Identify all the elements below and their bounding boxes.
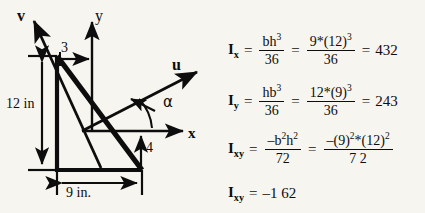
fraction-denominator: 7 2 <box>324 149 393 167</box>
dimension-label-12in: 12 in <box>6 97 34 111</box>
fraction-denominator: 36 <box>307 50 355 68</box>
fraction-numerator: 12*(9)3 <box>307 83 355 101</box>
u-axis-line <box>82 72 197 131</box>
fraction-numerator: 9*(12)3 <box>307 32 355 50</box>
y-axis-label: y <box>95 8 103 24</box>
u-axis-label: u <box>172 57 181 73</box>
fraction-denominator: 36 <box>307 101 355 119</box>
fraction-hb3-36: hb3 36 <box>259 83 284 119</box>
figure-canvas: v y u x α 3 4 12 in 9 in. Ix = bh3 36 = … <box>0 0 425 213</box>
dimension-label-4: 4 <box>146 141 153 155</box>
equation-ix: Ix = bh3 36 = 9*(12)3 36 = 432 <box>228 32 398 68</box>
equals-sign: = <box>244 93 252 110</box>
equation-ix-result: 432 <box>375 42 398 59</box>
triangle-outline <box>57 56 142 170</box>
fraction-9x12cubed-36: 9*(12)3 36 <box>307 32 355 68</box>
x-axis-label: x <box>188 126 196 141</box>
dimension-label-9in: 9 in. <box>66 186 91 200</box>
fraction-numerator: bh3 <box>259 32 284 50</box>
fraction-denominator: 72 <box>265 149 302 167</box>
dimension-12in <box>28 56 57 170</box>
equation-ixy-result-row: Ixy = –1 62 <box>228 184 296 203</box>
equals-sign: = <box>291 42 299 59</box>
equals-sign: = <box>291 93 299 110</box>
equation-iy: Iy = hb3 36 = 12*(9)3 36 = 243 <box>228 83 398 119</box>
diagram-panel: v y u x α 3 4 12 in 9 in. <box>0 0 215 213</box>
fraction-denominator: 36 <box>259 50 284 68</box>
equation-ixy-result-lhs: Ixy <box>228 184 244 203</box>
equals-sign: = <box>308 141 316 158</box>
equation-ixy-result-value: –1 62 <box>263 185 297 202</box>
alpha-angle-label: α <box>163 95 173 110</box>
equation-iy-result: 243 <box>375 93 398 110</box>
fraction-negb2h2-72: –b2h2 72 <box>265 131 302 167</box>
equals-sign: = <box>362 42 370 59</box>
fraction-neg9squared-12squared-72: –(9)2*(12)2 7 2 <box>324 131 393 167</box>
equation-ix-lhs: Ix <box>228 41 239 60</box>
fraction-denominator: 36 <box>259 101 284 119</box>
fraction-12x9cubed-36: 12*(9)3 36 <box>307 83 355 119</box>
fraction-numerator: –(9)2*(12)2 <box>324 131 393 149</box>
equations-panel: Ix = bh3 36 = 9*(12)3 36 = 432 Iy = hb3 … <box>215 0 425 213</box>
fraction-numerator: –b2h2 <box>265 131 302 149</box>
equals-sign: = <box>249 141 257 158</box>
equation-iy-lhs: Iy <box>228 92 239 111</box>
equation-ixy-lhs: Ixy <box>228 140 244 159</box>
equals-sign: = <box>244 42 252 59</box>
fraction-bh3-36: bh3 36 <box>259 32 284 68</box>
dimension-4 <box>141 136 142 170</box>
v-axis-label: v <box>17 8 25 24</box>
equation-ixy: Ixy = –b2h2 72 = –(9)2*(12)2 7 2 <box>228 131 395 167</box>
dimension-label-3: 3 <box>61 41 68 55</box>
equals-sign: = <box>249 185 257 202</box>
equals-sign: = <box>362 93 370 110</box>
fraction-numerator: hb3 <box>259 83 284 101</box>
